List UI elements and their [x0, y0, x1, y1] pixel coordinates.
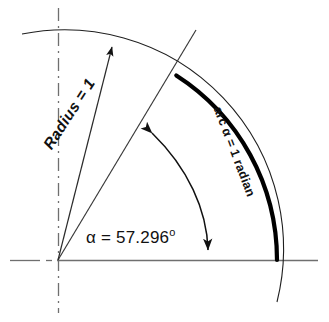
degree-symbol: o [169, 226, 175, 238]
angle-value: 57.296 [116, 228, 169, 247]
diagram-canvas [0, 0, 329, 322]
unit-arc-1-radian [176, 76, 277, 261]
angle-symbol: α [86, 228, 96, 247]
angle-equals: = [96, 228, 116, 247]
radian-diagram: α = 57.296o Radius = 1 arc α = 1 radian [0, 0, 329, 322]
angle-label: α = 57.296o [86, 227, 176, 246]
